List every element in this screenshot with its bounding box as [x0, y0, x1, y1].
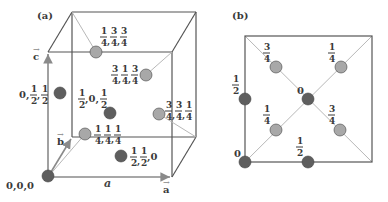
- label-half-0-half: 12 ,0, 12: [78, 88, 107, 110]
- svg-text:,: ,: [182, 110, 185, 121]
- label-b-half-left: 12: [232, 74, 239, 96]
- svg-text:3: 3: [112, 64, 118, 74]
- atom-b-quarter-topright: [335, 61, 347, 73]
- panel-b: (b) 34 14 12: [232, 10, 372, 168]
- label-b-3q-topleft: 34: [263, 42, 270, 64]
- svg-text:2: 2: [233, 86, 239, 96]
- panel-b-label: (b): [232, 10, 248, 21]
- atom-b-half-bottom: [302, 156, 314, 168]
- label-b-half-bottom: 12: [296, 136, 303, 158]
- atom-3q-3q-quarter: [153, 108, 165, 120]
- atom-b-3q-topleft: [270, 61, 282, 73]
- atom-b-3q-botright: [334, 124, 346, 136]
- svg-text:3: 3: [166, 100, 172, 110]
- svg-text:4: 4: [264, 54, 270, 64]
- svg-text:,: ,: [137, 156, 140, 167]
- svg-text:,: ,: [37, 90, 40, 101]
- svg-text:3: 3: [176, 100, 182, 110]
- svg-text:4: 4: [329, 116, 335, 126]
- svg-text:,: ,: [128, 74, 131, 85]
- label-b-0-center: 0: [297, 85, 304, 96]
- svg-text:3: 3: [329, 104, 335, 114]
- svg-text:1: 1: [186, 100, 192, 110]
- label-b-quarter-topright: 14: [328, 42, 335, 64]
- label-quarter-quarter-quarter: 14 , 14 , 14: [94, 124, 121, 146]
- label-half-half-0: 12 , 12 ,0: [130, 146, 157, 168]
- svg-text:,: ,: [118, 74, 121, 85]
- svg-text:4: 4: [329, 54, 335, 64]
- label-b-3q-botright: 34: [328, 104, 335, 126]
- label-quarter-3q-3q: 14 , 34 , 34: [100, 26, 127, 48]
- svg-text:1: 1: [42, 84, 48, 94]
- atom-3q-quarter-3q: [140, 69, 152, 81]
- panel-a-label: (a): [37, 10, 53, 21]
- panel-a: (a): [6, 10, 196, 195]
- svg-text:1: 1: [264, 104, 270, 114]
- label-b-quarter-botleft: 14: [263, 104, 270, 126]
- svg-text:4: 4: [132, 76, 138, 86]
- svg-text:4: 4: [186, 112, 192, 122]
- svg-text:1: 1: [101, 26, 107, 36]
- svg-text:,: ,: [107, 36, 110, 47]
- label-3q-3q-quarter: 34 , 34 , 14: [165, 100, 192, 122]
- svg-text:2: 2: [297, 148, 303, 158]
- svg-text:,: ,: [101, 134, 104, 145]
- svg-text:1: 1: [329, 42, 335, 52]
- label-b-0-corner: 0: [234, 148, 241, 159]
- svg-text:0,: 0,: [19, 89, 29, 101]
- atom-half-half-0: [115, 150, 127, 162]
- svg-text:1: 1: [131, 146, 137, 156]
- atom-0-half-half: [54, 87, 66, 99]
- a-vector-arrow: →: [163, 178, 170, 187]
- svg-text:4: 4: [115, 136, 121, 146]
- a-length-label: a: [104, 177, 111, 190]
- svg-text:,0: ,0: [147, 151, 157, 163]
- atom-b-quarter-botleft: [270, 124, 282, 136]
- svg-text:,: ,: [172, 110, 175, 121]
- axis-labels: c → b → a → a: [33, 45, 170, 195]
- label-3q-quarter-3q: 34 , 14 , 34: [111, 64, 138, 86]
- svg-text:,: ,: [111, 134, 114, 145]
- svg-text:1: 1: [122, 64, 128, 74]
- svg-text:,0,: ,0,: [85, 93, 99, 105]
- svg-text:,: ,: [117, 36, 120, 47]
- atom-b-half-left: [239, 93, 251, 105]
- svg-text:2: 2: [101, 100, 107, 110]
- svg-text:3: 3: [111, 26, 117, 36]
- crystal-structure-figure: (a): [0, 0, 388, 202]
- label-0-0-0: 0,0,0: [6, 180, 34, 192]
- svg-text:4: 4: [121, 38, 127, 48]
- svg-text:1: 1: [105, 124, 111, 134]
- svg-text:1: 1: [233, 74, 239, 84]
- svg-text:1: 1: [95, 124, 101, 134]
- svg-text:1: 1: [115, 124, 121, 134]
- svg-text:3: 3: [121, 26, 127, 36]
- svg-text:1: 1: [297, 136, 303, 146]
- svg-text:1: 1: [101, 88, 107, 98]
- svg-text:3: 3: [132, 64, 138, 74]
- svg-text:4: 4: [264, 116, 270, 126]
- c-vector-arrow: →: [33, 45, 40, 54]
- svg-text:3: 3: [264, 42, 270, 52]
- b-vector-arrow: →: [57, 130, 64, 139]
- atom-0-0-0: [42, 170, 54, 182]
- svg-text:2: 2: [42, 96, 48, 106]
- atom-quarter-quarter-quarter: [79, 128, 91, 140]
- label-0-half-half: 0, 12 , 12: [19, 84, 48, 106]
